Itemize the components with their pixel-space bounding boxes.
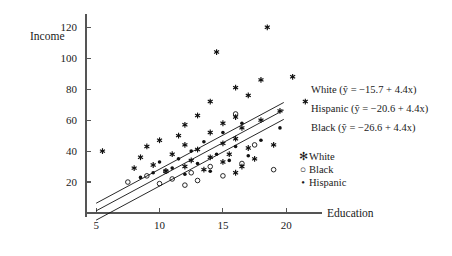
equation-white: White (ŷ = −15.7 + 4.4x) (311, 85, 417, 96)
point-white (182, 122, 187, 128)
point-white (227, 151, 232, 157)
point-black (157, 181, 162, 186)
point-black (189, 170, 194, 175)
point-white (157, 137, 162, 143)
white-marker-icon: ✻ (297, 152, 309, 163)
point-hispanic (208, 169, 212, 173)
x-tick-label: 10 (154, 219, 166, 231)
point-white (258, 77, 263, 83)
x-tick-label: 20 (281, 219, 293, 231)
point-white (290, 74, 295, 80)
point-white (246, 145, 251, 151)
point-white (144, 144, 149, 150)
regression-line-hispanic (96, 110, 284, 211)
point-white (246, 92, 251, 98)
point-black (195, 178, 200, 183)
point-hispanic (234, 145, 238, 149)
point-hispanic (183, 173, 187, 177)
point-white (208, 99, 213, 105)
point-hispanic (139, 176, 143, 180)
point-white (100, 148, 105, 154)
point-white (195, 113, 200, 119)
regression-line-white (96, 102, 284, 203)
ticks-group (86, 27, 286, 213)
point-white (258, 117, 263, 123)
legend-item-white: ✻White (297, 152, 335, 163)
equation-black: Black (ŷ = −26.6 + 4.4x) (311, 123, 415, 134)
black-marker-icon: ○ (297, 165, 309, 176)
point-white (132, 165, 137, 171)
point-white (170, 151, 175, 157)
point-white (214, 49, 219, 55)
point-hispanic (215, 152, 219, 156)
legend-label-black: Black (309, 164, 334, 175)
y-tick-label: 20 (66, 176, 78, 188)
tick-labels-group: 510152020406080100120 (61, 21, 293, 231)
hispanic-marker-icon: • (297, 178, 309, 189)
point-white (233, 170, 238, 176)
point-hispanic (259, 138, 263, 142)
point-hispanic (221, 131, 225, 135)
x-tick-label: 5 (93, 219, 99, 231)
point-hispanic (227, 159, 231, 163)
point-white (220, 120, 225, 126)
point-white (252, 156, 257, 162)
point-black (271, 167, 276, 172)
legend-label-hispanic: Hispanic (309, 177, 346, 188)
x-tick-label: 15 (217, 219, 229, 231)
point-white (265, 24, 270, 30)
point-hispanic (189, 149, 193, 153)
y-tick-label: 60 (66, 114, 78, 126)
point-hispanic (151, 171, 155, 175)
point-black (221, 174, 226, 179)
point-white (303, 99, 308, 105)
scatter-plot-figure: 510152020406080100120 Income Education W… (0, 0, 452, 256)
legend-item-hispanic: •Hispanic (297, 178, 346, 189)
point-white (220, 159, 225, 165)
point-white (138, 154, 143, 160)
y-axis-title: Income (30, 30, 64, 42)
point-black (183, 183, 188, 188)
point-black (126, 180, 131, 185)
point-white (201, 167, 206, 173)
y-tick-label: 80 (66, 83, 78, 95)
point-hispanic (246, 154, 250, 158)
point-black (252, 143, 257, 148)
axes-group (86, 14, 322, 217)
point-hispanic (240, 121, 244, 125)
point-white (233, 85, 238, 91)
point-white (182, 142, 187, 148)
point-hispanic (170, 166, 174, 170)
y-tick-label: 40 (66, 145, 78, 157)
point-hispanic (177, 157, 181, 161)
y-tick-label: 100 (61, 52, 78, 64)
legend-item-black: ○Black (297, 165, 334, 176)
legend-label-white: White (309, 151, 335, 162)
point-hispanic (196, 162, 200, 166)
point-hispanic (158, 160, 162, 164)
point-white (271, 142, 276, 148)
x-axis-title: Education (327, 207, 374, 219)
point-white (208, 130, 213, 136)
point-hispanic (202, 140, 206, 144)
regression-line-black (96, 119, 284, 220)
point-white (176, 133, 181, 139)
equation-hispanic: Hispanic (ŷ = −20.6 + 4.4x) (311, 104, 428, 115)
point-white (151, 162, 156, 168)
point-hispanic (278, 126, 282, 130)
point-black (208, 164, 213, 169)
